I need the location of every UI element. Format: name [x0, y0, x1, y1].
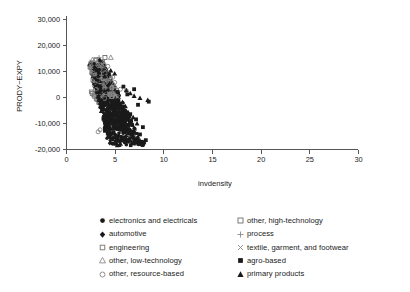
data-point	[123, 112, 127, 116]
legend: electronics and electricalsautomotiveeng…	[96, 214, 396, 286]
legend-item[interactable]: agro-based	[234, 254, 399, 267]
cross-icon	[234, 241, 247, 254]
open-circle-glyph	[100, 272, 105, 277]
data-point	[116, 111, 120, 115]
legend-marker-filled-diamond	[96, 228, 109, 241]
data-point	[113, 108, 117, 112]
y-tick-label: 20,000	[37, 41, 60, 50]
data-point	[95, 69, 99, 73]
y-axis-title: PRODY−EXPY	[15, 60, 24, 112]
plot-area-wrapper: 30,00020,00010,0000-10,000-20,000 051015…	[0, 0, 410, 200]
legend-column-right: other, high-technologyprocesstextile, ga…	[234, 214, 399, 281]
data-point	[93, 76, 97, 80]
legend-item[interactable]: automotive	[96, 227, 236, 240]
data-point	[133, 127, 137, 131]
plus-icon	[234, 228, 247, 241]
open-circle-icon	[96, 268, 109, 281]
legend-marker-open-triangle	[96, 254, 109, 267]
legend-item-label: engineering	[109, 244, 149, 252]
data-point	[112, 104, 116, 108]
small-square-gray-icon	[96, 241, 109, 254]
x-tick-label: 20	[257, 155, 265, 164]
series-dense-cloud	[87, 57, 145, 147]
cross-glyph	[238, 245, 243, 250]
legend-marker-open-square	[234, 214, 247, 227]
legend-item[interactable]: other, high-technology	[234, 214, 399, 227]
legend-item[interactable]: electronics and electricals	[96, 214, 236, 227]
small-square-gray-glyph	[100, 245, 105, 250]
data-point	[115, 99, 119, 103]
data-point	[99, 105, 103, 109]
data-point	[112, 71, 117, 76]
x-tick-label: 15	[208, 155, 216, 164]
data-point	[103, 55, 107, 59]
data-point	[141, 125, 145, 129]
legend-item[interactable]: textile, garment, and footwear	[234, 241, 399, 254]
legend-marker-cross	[234, 241, 247, 254]
filled-triangle-icon	[234, 268, 247, 281]
y-tick-label: 30,000	[37, 15, 60, 24]
legend-item-label: other, high-technology	[247, 217, 323, 225]
legend-item-label: agro-based	[247, 257, 286, 265]
y-tick-label: -10,000	[35, 119, 60, 128]
data-point	[105, 108, 109, 112]
filled-circle-glyph	[100, 218, 105, 223]
data-point	[137, 95, 142, 100]
data-point	[107, 132, 111, 136]
data-point	[130, 130, 134, 134]
legend-marker-filled-square	[234, 254, 247, 267]
data-point	[99, 87, 103, 91]
legend-item-label: other, resource-based	[109, 270, 184, 278]
data-point	[126, 116, 130, 120]
y-tick-label: 10,000	[37, 67, 60, 76]
legend-item-label: other, low-technology	[109, 257, 182, 265]
y-tick-label: -20,000	[35, 145, 60, 154]
legend-marker-plus	[234, 228, 247, 241]
legend-item-label: primary products	[247, 270, 304, 278]
data-point	[108, 55, 113, 59]
open-triangle-icon	[96, 254, 109, 267]
data-point	[127, 124, 131, 128]
legend-item[interactable]: process	[234, 227, 399, 240]
x-tick-label: 0	[64, 155, 68, 164]
legend-marker-open-circle	[96, 268, 109, 281]
open-square-glyph	[238, 218, 243, 223]
filled-circle-icon	[96, 214, 109, 227]
data-point	[130, 122, 134, 126]
x-axis-ticks: 051015202530	[64, 150, 362, 165]
legend-item[interactable]: primary products	[234, 268, 399, 281]
legend-item[interactable]: other, low-technology	[96, 254, 236, 267]
data-points-layer	[87, 55, 150, 147]
data-point	[117, 131, 121, 135]
data-point	[103, 122, 107, 126]
x-tick-label: 25	[306, 155, 314, 164]
data-point	[135, 121, 140, 126]
data-point	[123, 131, 127, 135]
data-point	[122, 85, 126, 89]
x-axis-title: invdensity	[198, 179, 232, 188]
filled-square-icon	[234, 254, 247, 267]
filled-triangle-glyph	[237, 271, 243, 277]
data-point	[96, 96, 100, 100]
data-point	[132, 93, 137, 98]
legend-item-label: automotive	[109, 230, 147, 238]
data-point	[125, 143, 129, 147]
legend-column-left: electronics and electricalsautomotiveeng…	[96, 214, 236, 281]
legend-item-label: electronics and electricals	[109, 217, 197, 225]
data-point	[98, 59, 102, 63]
legend-item-label: process	[247, 230, 274, 238]
data-point	[92, 62, 96, 66]
data-point	[121, 101, 125, 105]
data-point	[119, 111, 123, 115]
y-tick-label: 0	[56, 93, 60, 102]
x-tick-label: 5	[113, 155, 117, 164]
data-point	[132, 87, 136, 91]
plus-glyph	[238, 231, 244, 237]
x-tick-label: 30	[354, 155, 362, 164]
legend-item[interactable]: engineering	[96, 241, 236, 254]
scatter-plot-figure: 30,00020,00010,0000-10,000-20,000 051015…	[0, 0, 410, 292]
scatter-plot-svg: 30,00020,00010,0000-10,000-20,000 051015…	[0, 0, 410, 200]
data-point	[114, 117, 118, 121]
data-point	[140, 140, 144, 144]
legend-item[interactable]: other, resource-based	[96, 268, 236, 281]
